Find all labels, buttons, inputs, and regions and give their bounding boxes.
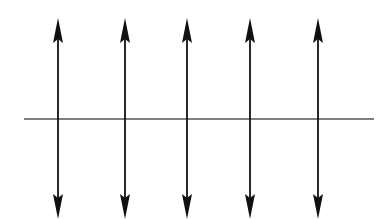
arrows-diagram	[0, 0, 387, 219]
diagram-canvas	[0, 0, 387, 219]
